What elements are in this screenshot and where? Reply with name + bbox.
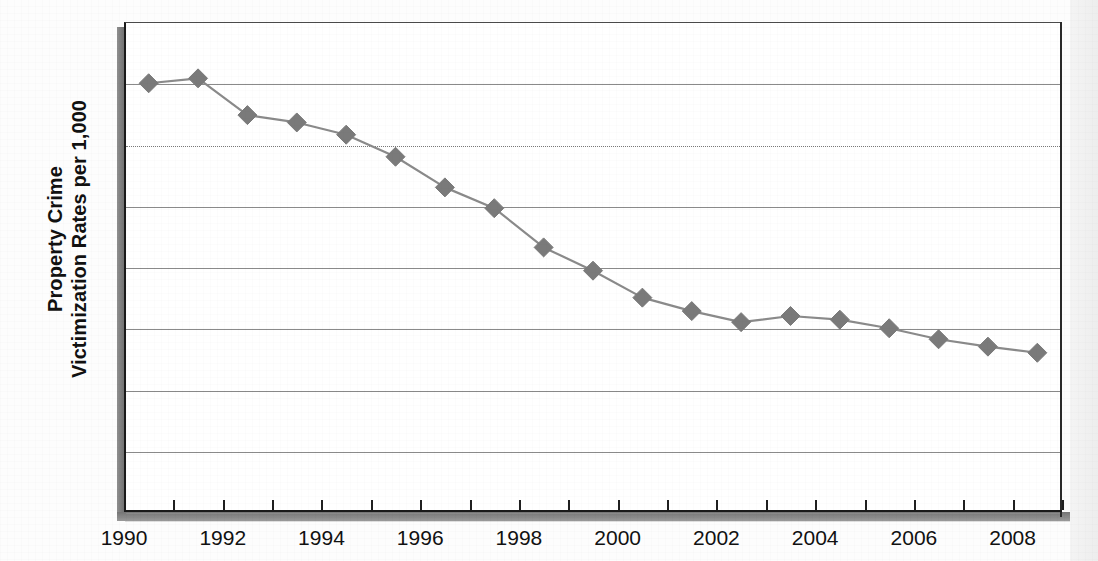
x-tick-label-2008: 2008 <box>971 526 1055 550</box>
data-point-marker <box>189 69 208 88</box>
page-edge-shading <box>1070 0 1098 561</box>
x-tick-label-1998: 1998 <box>477 526 561 550</box>
data-point-marker <box>584 261 603 280</box>
data-point-marker <box>880 319 899 338</box>
data-point-marker <box>435 178 454 197</box>
data-series-layer <box>124 22 1062 512</box>
y-axis-title-line-1: Property Crime <box>44 166 68 312</box>
x-tick-2009 <box>1062 500 1064 510</box>
data-point-marker <box>929 330 948 349</box>
data-point-marker <box>386 147 405 166</box>
x-tick-label-1994: 1994 <box>279 526 363 550</box>
gridline-0 <box>126 513 1062 514</box>
data-point-marker <box>337 125 356 144</box>
data-point-marker <box>978 337 997 356</box>
data-point-marker <box>781 307 800 326</box>
data-point-marker <box>830 310 849 329</box>
data-point-marker <box>682 302 701 321</box>
data-point-marker <box>139 74 158 93</box>
data-point-marker <box>1028 343 1047 362</box>
x-tick-label-1992: 1992 <box>181 526 265 550</box>
y-axis-title-line-2: Victimization Rates per 1,000 <box>68 100 92 378</box>
x-tick-label-2006: 2006 <box>872 526 956 550</box>
data-point-marker <box>287 113 306 132</box>
x-tick-label-1990: 1990 <box>82 526 166 550</box>
x-tick-label-1996: 1996 <box>378 526 462 550</box>
data-point-marker <box>732 313 751 332</box>
y-axis-title: Property Crime Victimization Rates per 1… <box>44 29 92 449</box>
x-tick-label-2000: 2000 <box>576 526 660 550</box>
x-tick-label-2004: 2004 <box>773 526 857 550</box>
x-tick-label-2002: 2002 <box>674 526 758 550</box>
series-markers <box>139 69 1047 362</box>
data-point-marker <box>238 106 257 125</box>
series-line <box>149 78 1038 352</box>
chart-screenshot: Property Crime Victimization Rates per 1… <box>0 0 1098 561</box>
data-point-marker <box>633 288 652 307</box>
